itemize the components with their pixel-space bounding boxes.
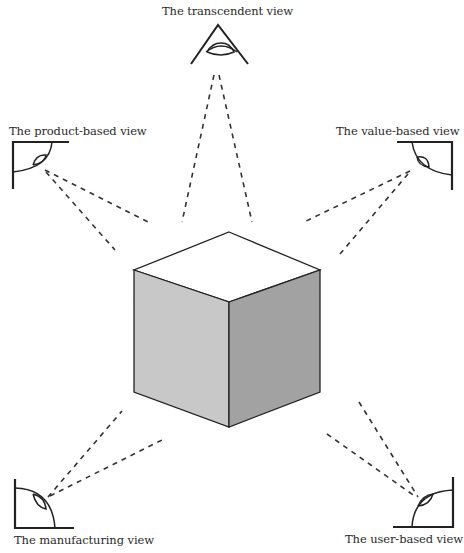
eye-icon-user xyxy=(393,477,453,527)
eye-icon-value xyxy=(397,142,452,190)
label-user-based-view: The user-based view xyxy=(345,532,463,546)
sight-line-transcendent-left xyxy=(182,75,214,222)
sight-line-manufacturing-lower xyxy=(50,438,166,496)
sight-line-user-upper xyxy=(359,402,418,497)
label-product-based-view: The product-based view xyxy=(9,124,147,138)
cube xyxy=(134,232,320,427)
sight-line-product-lower xyxy=(46,172,115,250)
sight-line-product-upper xyxy=(45,170,152,224)
sight-line-value-upper xyxy=(302,171,410,223)
eye-icon-product xyxy=(13,142,69,189)
eye-icon-manufacturing xyxy=(15,479,74,528)
label-transcendent-view: The transcendent view xyxy=(162,4,293,18)
sight-line-value-lower xyxy=(340,174,408,254)
label-value-based-view: The value-based view xyxy=(336,124,459,138)
sight-line-transcendent-right xyxy=(219,75,252,222)
sight-line-manufacturing-upper xyxy=(48,411,122,497)
diagram-canvas xyxy=(0,0,464,553)
eye-icon-transcendent xyxy=(191,25,248,64)
label-manufacturing-view: The manufacturing view xyxy=(14,533,154,547)
sight-line-user-lower xyxy=(327,434,416,497)
